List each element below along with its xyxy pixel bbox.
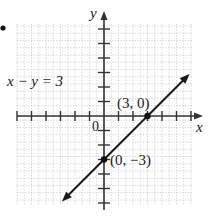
y-axis-arrow-icon [101,11,108,20]
point-label-y-intercept: (0, −3) [110,152,151,169]
equation-line [62,74,190,202]
graph-figure: x − y = 3 x y 0 (3, 0) (0, −3) [0,0,215,218]
equation-label: x − y = 3 [6,73,63,89]
y-axis-label: y [88,5,97,21]
bullet-icon [0,25,5,30]
grid [17,24,193,206]
x-axis-label: x [195,119,203,135]
point-marker [144,113,150,119]
point-label-x-intercept: (3, 0) [117,95,150,112]
coordinate-plane: x − y = 3 x y 0 (3, 0) (0, −3) [0,0,215,218]
origin-label: 0 [92,119,99,134]
point-marker [101,156,107,162]
